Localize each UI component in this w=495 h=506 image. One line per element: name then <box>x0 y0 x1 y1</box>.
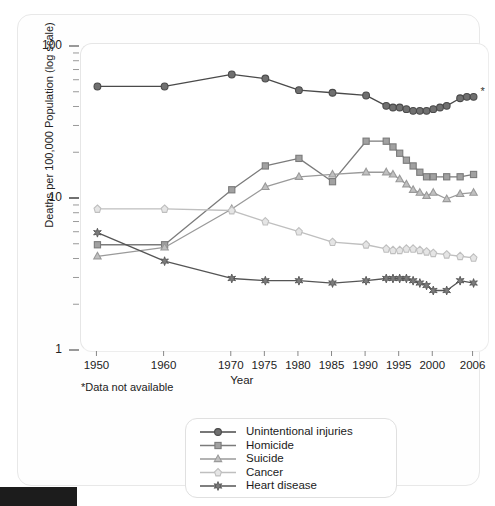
axis-ticks <box>18 15 479 375</box>
legend-label: Unintentional injuries <box>246 425 353 437</box>
legend-label: Cancer <box>246 466 283 478</box>
chart-page: Deaths per 100,000 Population (log scale… <box>0 0 495 506</box>
legend-label: Suicide <box>246 452 284 464</box>
chart-legend: Unintentional injuriesHomicideSuicideCan… <box>185 418 397 498</box>
footnote-text: *Data not available <box>81 381 173 393</box>
legend-label: Homicide <box>246 439 294 451</box>
legend-item-unintentional-injuries[interactable] <box>200 429 236 436</box>
legend-item-homicide[interactable] <box>200 442 236 448</box>
chart-card: Deaths per 100,000 Population (log scale… <box>17 14 480 486</box>
bottom-black-bar <box>0 487 77 506</box>
legend-item-heart-disease[interactable] <box>200 482 236 491</box>
legend-label: Heart disease <box>246 479 317 491</box>
data-not-available-asterisk: * <box>481 85 486 97</box>
legend-item-suicide[interactable] <box>200 455 236 462</box>
legend-item-cancer[interactable] <box>200 469 236 476</box>
x-axis-title: Year <box>230 374 253 386</box>
